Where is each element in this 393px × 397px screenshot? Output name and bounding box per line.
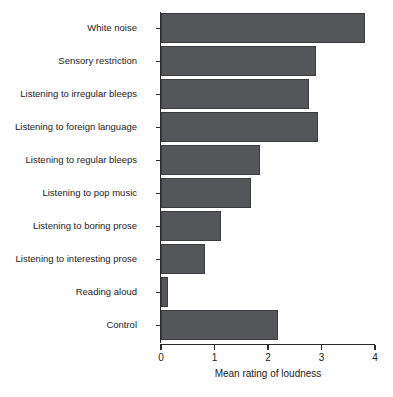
x-axis-tick-label: 3 — [312, 352, 332, 363]
x-axis-tick-label: 0 — [151, 352, 171, 363]
y-axis-tick — [156, 226, 161, 227]
y-axis-tick — [156, 94, 161, 95]
plot-area: White noiseSensory restrictionListening … — [161, 12, 375, 342]
x-axis-title: Mean rating of loudness — [161, 368, 375, 379]
y-axis-tick — [156, 61, 161, 62]
bar-row: Listening to regular bleeps — [161, 144, 375, 177]
bar — [161, 112, 318, 142]
bar — [161, 277, 168, 307]
bar-row: Listening to foreign language — [161, 111, 375, 144]
y-axis-tick-label: Reading aloud — [0, 287, 137, 297]
bar — [161, 145, 260, 175]
y-axis-tick-label: Listening to pop music — [0, 188, 137, 198]
bar-row: Listening to pop music — [161, 177, 375, 210]
bar — [161, 211, 221, 241]
bar-row: Reading aloud — [161, 276, 375, 309]
bar-row: Listening to irregular bleeps — [161, 78, 375, 111]
y-axis-tick-label: Listening to irregular bleeps — [0, 89, 137, 99]
x-axis-tick — [160, 345, 161, 350]
x-axis-tick — [214, 345, 215, 350]
x-axis-tick — [374, 345, 375, 350]
x-axis-tick-label: 1 — [205, 352, 225, 363]
bar-row: Listening to interesting prose — [161, 243, 375, 276]
bar-row: White noise — [161, 12, 375, 45]
bar — [161, 46, 316, 76]
bar — [161, 79, 309, 109]
bar-row: Control — [161, 309, 375, 342]
y-axis-tick-label: Listening to regular bleeps — [0, 155, 137, 165]
y-axis-tick-label: Control — [0, 320, 137, 330]
bar — [161, 310, 278, 340]
bar — [161, 244, 205, 274]
x-axis-tick — [267, 345, 268, 350]
bar — [161, 178, 251, 208]
y-axis-tick-label: Sensory restriction — [0, 56, 137, 66]
y-axis-tick — [156, 160, 161, 161]
bar-row: Sensory restriction — [161, 45, 375, 78]
x-axis-tick-label: 4 — [365, 352, 385, 363]
x-axis-tick — [321, 345, 322, 350]
y-axis-tick — [156, 259, 161, 260]
y-axis-tick — [156, 28, 161, 29]
y-axis-tick-label: Listening to boring prose — [0, 221, 137, 231]
y-axis-tick-label: Listening to interesting prose — [0, 254, 137, 264]
bar — [161, 13, 365, 43]
bar-row: Listening to boring prose — [161, 210, 375, 243]
y-axis-tick-label: Listening to foreign language — [0, 122, 137, 132]
y-axis-tick — [156, 325, 161, 326]
y-axis-tick — [156, 127, 161, 128]
y-axis-tick-label: White noise — [0, 23, 137, 33]
x-axis-tick-label: 2 — [258, 352, 278, 363]
bar-chart-figure: White noiseSensory restrictionListening … — [0, 0, 393, 397]
y-axis-tick — [156, 193, 161, 194]
y-axis-tick — [156, 292, 161, 293]
